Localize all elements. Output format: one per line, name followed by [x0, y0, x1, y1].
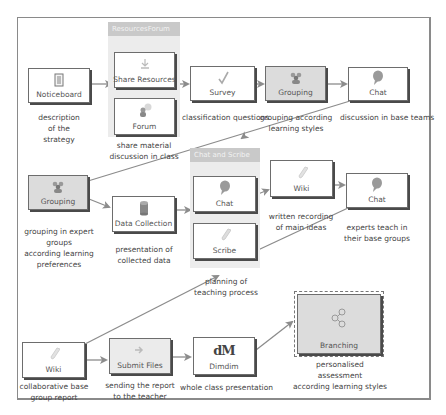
node-label: Grouping: [41, 197, 75, 209]
chat-bubble-icon: [371, 174, 383, 195]
submit-files-description: sending the report to the teacher: [100, 380, 180, 402]
node-label: Chat: [216, 199, 234, 211]
chat-bubble-icon: [372, 68, 384, 88]
node-label: Noticeboard: [36, 90, 82, 102]
noticeboard-icon: [54, 69, 64, 90]
wiki-icon: [48, 343, 60, 365]
node-survey[interactable]: Survey: [190, 66, 255, 101]
wiki-written-recording-description: written recording of main ideas: [262, 211, 340, 233]
description-text: presentation of collected data: [115, 245, 172, 265]
scribe-icon: [219, 224, 231, 246]
branching-icon: [331, 295, 347, 341]
description-text: share material discussion in class: [109, 141, 178, 161]
node-submit-files[interactable]: Submit Files: [109, 338, 171, 374]
chat-bubble-icon: [219, 177, 231, 199]
grouping-expert-groups-description: grouping in expert groups according lear…: [18, 226, 100, 270]
dimdim-description: whole class presentation: [180, 382, 270, 393]
description-text: personalised assessment according learni…: [293, 360, 387, 391]
resources-forum-description: share material discussion in class: [104, 140, 184, 162]
node-grouping-learning-styles[interactable]: Grouping: [265, 66, 326, 101]
node-branching[interactable]: Branching: [297, 294, 381, 354]
chat-experts-teach-description: experts teach in their base groups: [338, 222, 416, 244]
dimdim-logo-icon: dM: [213, 338, 234, 362]
node-label: Chat: [368, 195, 386, 207]
node-dimdim[interactable]: dM Dimdim: [193, 337, 255, 375]
node-label: Survey: [209, 88, 235, 100]
node-chat-experts-teach[interactable]: Chat: [346, 173, 408, 208]
node-label: Forum: [133, 122, 157, 134]
description-text: classification questions: [182, 113, 269, 122]
node-noticeboard[interactable]: Noticeboard: [28, 68, 90, 103]
node-label: Share Resources: [113, 75, 175, 87]
description-text: planning of teaching process: [194, 277, 258, 297]
node-label: Data Collection: [115, 219, 172, 231]
branching-description: personalised assessment according learni…: [290, 359, 390, 392]
description-text: discussion in base teams: [340, 113, 434, 122]
node-data-collection[interactable]: Data Collection: [112, 196, 175, 232]
wiki-collaborative-report-description: collaborative base group report: [14, 381, 94, 403]
description-text: whole class presentation: [180, 383, 273, 392]
description-text: collaborative base group report: [20, 382, 89, 402]
chat-and-scribe-description: planning of teaching process: [186, 276, 266, 298]
node-chat-planning[interactable]: Chat: [193, 176, 256, 212]
noticeboard-description: description of the strategy: [28, 112, 90, 145]
node-chat-base-teams[interactable]: Chat: [348, 67, 408, 101]
wiki-icon: [296, 161, 308, 184]
description-text: written recording of main ideas: [269, 212, 334, 232]
description-text: description of the strategy: [38, 113, 80, 144]
survey-description: classification questions: [182, 112, 264, 123]
node-label: Scribe: [213, 246, 236, 258]
data-collection-description: presentation of collected data: [104, 244, 184, 266]
description-text: grouping in expert groups according lear…: [24, 227, 94, 269]
node-forum[interactable]: Forum: [114, 98, 175, 135]
share-resources-icon: [139, 53, 151, 75]
node-label: Submit Files: [117, 361, 162, 373]
resources-forum-group-label: ResourcesForum: [108, 22, 180, 36]
node-wiki-written-recording[interactable]: Wiki: [270, 160, 333, 197]
description-text: experts teach in their base groups: [344, 223, 410, 243]
node-label: Branching: [320, 341, 358, 353]
description-text: grouping according learning styles: [260, 113, 333, 133]
node-share-resources[interactable]: Share Resources: [114, 52, 175, 88]
node-grouping-expert-groups[interactable]: Grouping: [28, 175, 88, 210]
grouping-icon: [288, 67, 304, 88]
node-wiki-collaborative-report[interactable]: Wiki: [22, 342, 85, 378]
grouping-icon: [50, 176, 66, 197]
node-label: Dimdim: [209, 362, 238, 374]
description-text: sending the report to the teacher: [105, 381, 175, 401]
database-icon: [138, 197, 150, 219]
node-label: Wiki: [46, 365, 62, 377]
submit-arrow-icon: [134, 339, 146, 361]
node-scribe[interactable]: Scribe: [193, 223, 256, 259]
survey-check-icon: [217, 67, 229, 88]
node-label: Chat: [369, 88, 387, 100]
forum-icon: [137, 99, 153, 122]
chat-and-scribe-group-label: Chat and Scribe: [190, 148, 260, 162]
node-label: Wiki: [294, 184, 310, 196]
grouping-learning-styles-description: grouping according learning styles: [258, 112, 334, 134]
node-label: Grouping: [278, 88, 312, 100]
chat-base-teams-description: discussion in base teams: [340, 112, 416, 123]
